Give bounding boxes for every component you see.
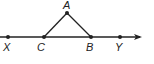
label-c: C xyxy=(37,41,45,53)
point-c xyxy=(42,35,46,39)
label-x: X xyxy=(2,41,11,53)
geometry-diagram: X C B Y A xyxy=(0,0,154,64)
label-b: B xyxy=(86,41,93,53)
segment-ab xyxy=(67,13,91,37)
segment-ca xyxy=(44,13,67,37)
point-y xyxy=(118,35,122,39)
label-y: Y xyxy=(115,41,123,53)
point-b xyxy=(89,35,93,39)
label-a: A xyxy=(62,0,70,11)
point-x xyxy=(6,35,10,39)
point-a xyxy=(65,11,69,15)
